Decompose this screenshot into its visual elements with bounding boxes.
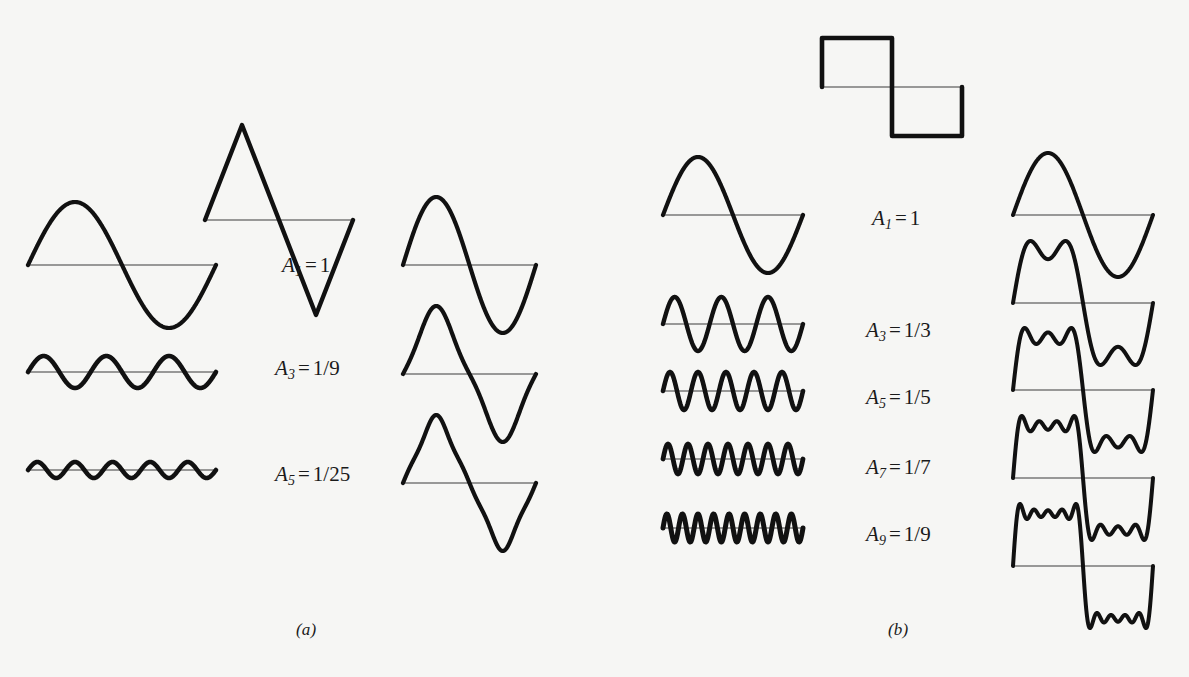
amplitude-label-a-h5: A5=1/25 bbox=[275, 462, 350, 489]
amplitude-value: 1 bbox=[320, 253, 331, 277]
equals-sign: = bbox=[295, 462, 313, 486]
target-square-wave-b bbox=[822, 38, 962, 136]
harmonic-index: 3 bbox=[288, 367, 295, 382]
harmonic-component-b-h5 bbox=[663, 372, 803, 410]
harmonic-component-b-h9 bbox=[663, 514, 803, 542]
amplitude-symbol: A bbox=[866, 455, 879, 479]
amplitude-value: 1/7 bbox=[904, 455, 931, 479]
fourier-synthesis-figure: A1=1A3=1/9A5=1/25(a)A1=1A3=1/3A5=1/5A7=1… bbox=[0, 0, 1189, 677]
amplitude-label-b-h3: A3=1/3 bbox=[866, 318, 931, 345]
amplitude-value: 1 bbox=[910, 206, 921, 230]
partial-sum-b-n1 bbox=[1013, 153, 1153, 277]
equals-sign: = bbox=[302, 253, 320, 277]
harmonic-component-a-h5 bbox=[28, 462, 216, 478]
amplitude-label-b-h9: A9=1/9 bbox=[866, 522, 931, 549]
harmonic-index: 1 bbox=[295, 264, 302, 279]
amplitude-label-a-h1: A1=1 bbox=[282, 253, 330, 280]
amplitude-symbol: A bbox=[866, 385, 879, 409]
equals-sign: = bbox=[892, 206, 910, 230]
amplitude-symbol: A bbox=[275, 356, 288, 380]
amplitude-label-a-h3: A3=1/9 bbox=[275, 356, 340, 383]
partial-sum-b-n3 bbox=[1013, 241, 1153, 365]
waveform-canvas bbox=[0, 0, 1189, 677]
equals-sign: = bbox=[886, 455, 904, 479]
partial-sum-a-n3 bbox=[403, 306, 536, 442]
amplitude-symbol: A bbox=[282, 253, 295, 277]
equals-sign: = bbox=[886, 522, 904, 546]
amplitude-value: 1/5 bbox=[904, 385, 931, 409]
partial-sum-b-n5 bbox=[1013, 328, 1153, 452]
target-triangle-wave-a bbox=[205, 125, 353, 315]
harmonic-index: 5 bbox=[288, 473, 295, 488]
amplitude-value: 1/3 bbox=[904, 318, 931, 342]
equals-sign: = bbox=[886, 385, 904, 409]
amplitude-label-b-h7: A7=1/7 bbox=[866, 455, 931, 482]
amplitude-label-b-h1: A1=1 bbox=[872, 206, 920, 233]
harmonic-index: 7 bbox=[879, 466, 886, 481]
harmonic-index: 9 bbox=[879, 533, 886, 548]
amplitude-symbol: A bbox=[866, 522, 879, 546]
partial-sum-b-n7 bbox=[1013, 416, 1153, 540]
amplitude-symbol: A bbox=[866, 318, 879, 342]
harmonic-component-b-h7 bbox=[663, 444, 803, 474]
harmonic-component-a-h3 bbox=[28, 356, 216, 388]
harmonic-component-a-h1 bbox=[28, 202, 216, 328]
harmonic-index: 5 bbox=[879, 396, 886, 411]
panel-caption-a: (a) bbox=[296, 620, 316, 640]
amplitude-value: 1/25 bbox=[313, 462, 350, 486]
amplitude-symbol: A bbox=[872, 206, 885, 230]
equals-sign: = bbox=[886, 318, 904, 342]
partial-sum-a-n5 bbox=[403, 415, 536, 551]
panel-caption-b: (b) bbox=[888, 620, 908, 640]
equals-sign: = bbox=[295, 356, 313, 380]
amplitude-label-b-h5: A5=1/5 bbox=[866, 385, 931, 412]
partial-sum-b-n9 bbox=[1013, 504, 1153, 628]
amplitude-symbol: A bbox=[275, 462, 288, 486]
amplitude-value: 1/9 bbox=[904, 522, 931, 546]
harmonic-component-b-h3 bbox=[663, 297, 803, 351]
harmonic-index: 1 bbox=[885, 217, 892, 232]
amplitude-value: 1/9 bbox=[313, 356, 340, 380]
partial-sum-a-n1 bbox=[403, 197, 536, 333]
harmonic-index: 3 bbox=[879, 329, 886, 344]
harmonic-component-b-h1 bbox=[663, 157, 803, 273]
